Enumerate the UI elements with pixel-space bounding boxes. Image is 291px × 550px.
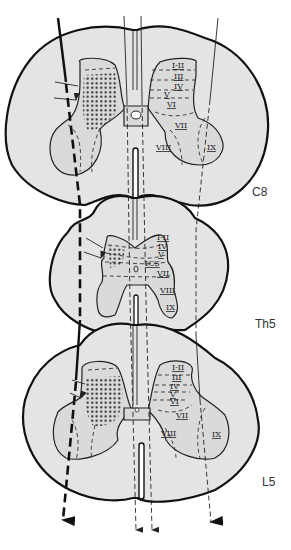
lamina-label: III (174, 72, 183, 81)
lamina-label: IX (166, 303, 175, 312)
l5-ventral-fissure (139, 443, 144, 499)
lamina-label: VII (175, 411, 188, 420)
lamina-label: III (172, 373, 181, 382)
lamina-label: VI (166, 100, 176, 109)
l5-stipple-area (85, 376, 122, 426)
section-c8: I-II III IV V VI VII VIII IX C8 (6, 26, 268, 205)
lamina-label: I-II (172, 363, 184, 372)
segment-label-l5: L5 (262, 475, 276, 489)
lamina-label: IX (207, 143, 216, 152)
spinal-cord-diagram: I-II III IV V VI VII VIII IX C8 I-II IV … (0, 0, 291, 550)
ics-label: ICS (145, 259, 160, 268)
section-l5: I-II III IV V VI VII VIII IX L5 (23, 324, 276, 502)
lamina-label: VII (174, 121, 187, 130)
section-th5: I-II IV V ICS VII VIII IX Th5 (50, 196, 276, 332)
lamina-label: V (163, 90, 170, 99)
lamina-label: V (157, 250, 164, 259)
central-canal (135, 408, 139, 412)
segment-label-c8: C8 (252, 185, 268, 199)
segment-label-th5: Th5 (255, 317, 276, 331)
lamina-label: I-II (172, 61, 184, 70)
lamina-label: VIII (159, 286, 175, 295)
lamina-label: VIII (155, 143, 171, 152)
c8-ventral-fissure (133, 148, 138, 200)
central-canal (131, 111, 141, 119)
lamina-label: VII (156, 269, 169, 278)
lamina-label: IX (212, 430, 221, 439)
lamina-label: IV (174, 82, 183, 91)
lamina-label: VIII (160, 429, 176, 438)
lamina-label: VI (169, 397, 179, 406)
lamina-label: I-II (157, 233, 169, 242)
